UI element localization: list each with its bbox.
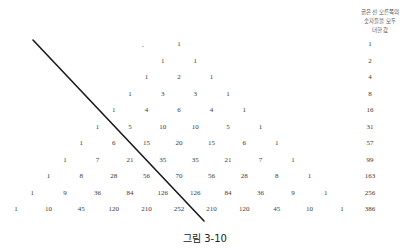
triangle-entry: 252	[174, 206, 185, 213]
triangle-entry: 35	[192, 156, 199, 163]
sum-column-header: 굵은 선 오른쪽의 숫자들을 모두 더한 값	[345, 8, 412, 35]
triangle-entry: 1	[210, 74, 214, 81]
triangle-entry: 84	[127, 189, 134, 196]
triangle-entry: 126	[190, 189, 201, 196]
triangle-entry: 120	[239, 206, 250, 213]
triangle-entry: 1	[79, 140, 83, 147]
triangle-entry: 126	[157, 189, 168, 196]
triangle-entry: 56	[143, 173, 150, 180]
figure-caption: 그림 3-10	[183, 230, 227, 245]
triangle-entry: 1	[324, 189, 328, 196]
triangle-entry: 35	[159, 156, 166, 163]
row-sum-value: 163	[365, 173, 376, 180]
triangle-entry: 8	[275, 173, 279, 180]
row-sum-value: 99	[367, 156, 374, 163]
triangle-entry: 28	[241, 173, 248, 180]
row-sum-value: 256	[365, 189, 376, 196]
triangle-entry: 5	[226, 123, 230, 130]
triangle-entry: 1	[128, 90, 132, 97]
triangle-entry: 1	[31, 189, 35, 196]
triangle-entry: 45	[273, 206, 280, 213]
triangle-entry: 6	[177, 107, 181, 114]
triangle-entry: 28	[110, 173, 117, 180]
triangle-entry: 1	[259, 123, 263, 130]
triangle-entry: 84	[224, 189, 231, 196]
triangle-entry: 1	[47, 173, 51, 180]
triangle-entry: 1	[14, 206, 18, 213]
triangle-entry: 21	[127, 156, 134, 163]
triangle-entry: 56	[208, 173, 215, 180]
triangle-entry: 9	[291, 189, 295, 196]
triangle-entry: 1	[291, 156, 295, 163]
header-line-2: 숫자들을 모두	[345, 17, 412, 26]
row-sum-value: 386	[365, 206, 376, 213]
triangle-entry: 1	[242, 107, 246, 114]
triangle-entry: 7	[96, 156, 100, 163]
row-sum-value: 16	[367, 107, 374, 114]
triangle-entry: 1	[145, 74, 149, 81]
row-sum-value: 2	[368, 57, 372, 64]
triangle-entry: 15	[208, 140, 215, 147]
triangle-entry: 1	[63, 156, 67, 163]
row-sum-value: 57	[367, 140, 374, 147]
triangle-entry: 3	[161, 90, 165, 97]
triangle-entry: 10	[306, 206, 313, 213]
triangle-entry: 2	[177, 74, 181, 81]
triangle-entry: 1	[161, 57, 165, 64]
triangle-entry: 1	[96, 123, 100, 130]
header-line-1: 굵은 선 오른쪽의	[345, 8, 412, 17]
triangle-entry: 1	[194, 57, 198, 64]
triangle-entry: 70	[176, 173, 183, 180]
triangle-entry: 4	[210, 107, 214, 114]
triangle-entry: 36	[94, 189, 101, 196]
triangle-entry: 15	[143, 140, 150, 147]
triangle-entry: 20	[176, 140, 183, 147]
row-sum-value: 8	[368, 90, 372, 97]
row-sum-value: 1	[368, 41, 372, 48]
triangle-entry: 45	[78, 206, 85, 213]
triangle-entry: 6	[112, 140, 116, 147]
triangle-entry: 9	[63, 189, 67, 196]
triangle-entry: 7	[259, 156, 263, 163]
triangle-entry: 8	[79, 173, 83, 180]
triangle-entry: 21	[224, 156, 231, 163]
triangle-entry: 210	[141, 206, 152, 213]
triangle-entry: 1	[275, 140, 279, 147]
triangle-entry: 10	[45, 206, 52, 213]
header-line-3: 더한 값	[345, 26, 412, 35]
triangle-entry: 36	[257, 189, 264, 196]
triangle-entry: 1	[177, 41, 181, 48]
triangle-entry: 6	[242, 140, 246, 147]
triangle-entry: 10	[192, 123, 199, 130]
stray-dot	[142, 46, 144, 47]
triangle-entry: 10	[159, 123, 166, 130]
triangle-entry: 1	[340, 206, 344, 213]
triangle-entry: 4	[145, 107, 149, 114]
row-sum-value: 4	[368, 74, 372, 81]
triangle-entry: 210	[206, 206, 217, 213]
row-sum-value: 31	[367, 123, 374, 130]
triangle-entry: 120	[109, 206, 120, 213]
triangle-entry: 5	[128, 123, 132, 130]
triangle-entry: 3	[194, 90, 198, 97]
triangle-entry: 1	[308, 173, 312, 180]
triangle-entry: 1	[112, 107, 116, 114]
pascal-triangle-figure: 굵은 선 오른쪽의 숫자들을 모두 더한 값 11112113311464115…	[0, 0, 412, 249]
triangle-entry: 1	[226, 90, 230, 97]
